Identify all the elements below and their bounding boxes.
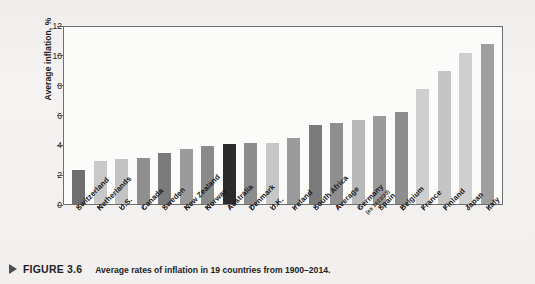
caption-marker-icon bbox=[9, 264, 17, 274]
bar-ireland bbox=[287, 138, 300, 204]
bar-slot bbox=[154, 27, 176, 204]
bar-slot bbox=[68, 27, 90, 204]
bar-belgium bbox=[395, 112, 408, 204]
bar-slot bbox=[262, 27, 284, 204]
bar-slot bbox=[412, 27, 434, 204]
bar-finland bbox=[438, 71, 451, 204]
figure-container: Average inflation, % 024681012 Switzerla… bbox=[0, 0, 535, 284]
x-axis-labels: SwitzerlandNetherlandsU.S.CanadaSwedenNe… bbox=[63, 206, 503, 258]
bar-slot bbox=[477, 27, 499, 204]
caption-figure-number: FIGURE 3.6 bbox=[23, 263, 82, 275]
bar-italy bbox=[481, 44, 494, 204]
caption-description: Average rates of inflation in 19 countri… bbox=[95, 265, 330, 275]
bar-slot bbox=[240, 27, 262, 204]
figure-caption: FIGURE 3.6 Average rates of inflation in… bbox=[9, 263, 330, 275]
bar-slot bbox=[176, 27, 198, 204]
bar-slot bbox=[369, 27, 391, 204]
bar-slot bbox=[90, 27, 112, 204]
bar-slot bbox=[348, 27, 370, 204]
bar-slot bbox=[391, 27, 413, 204]
bar-slot bbox=[455, 27, 477, 204]
bar-slot bbox=[133, 27, 155, 204]
bar-japan bbox=[459, 53, 472, 204]
bar-slot bbox=[305, 27, 327, 204]
bar-slot bbox=[434, 27, 456, 204]
bar-slot bbox=[283, 27, 305, 204]
